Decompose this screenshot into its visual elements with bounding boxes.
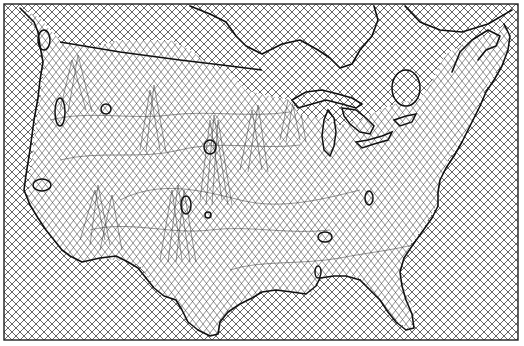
cartogram-svg — [0, 0, 524, 346]
map-figure — [0, 0, 524, 346]
